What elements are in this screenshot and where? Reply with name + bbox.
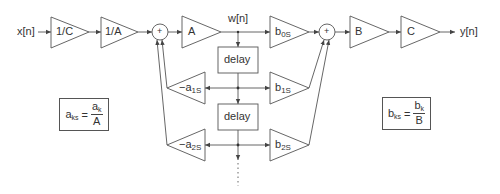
wire-b1s-to-sum [309,40,324,88]
equation-b-lhs: bks [388,107,401,120]
equation-b-lhs-sub: ks [394,113,401,120]
gain-1-over-a-label: 1/A [105,26,122,37]
gain-c-label: C [407,26,415,37]
equation-a-numerator: ak [91,101,103,115]
gain-neg-a2s-label: −a2S [179,139,201,152]
delay-1-label: delay [224,54,250,65]
gain-1-over-c-label: 1/C [56,26,73,37]
internal-signal-label: w[n] [228,13,248,24]
gain-b2s-label: b2S [275,139,291,152]
equation-b-fraction: bk B [413,100,425,127]
gain-a-label: A [188,26,195,37]
gain-neg-a2s-sub: 2S [192,143,202,152]
equation-a-denominator: A [93,115,100,128]
wire-a1s-to-sum [162,40,167,88]
gain-b2s-sub: 2S [281,143,291,152]
input-signal-label: x[n] [17,26,35,37]
gain-b1s-sub: 1S [281,86,291,95]
equation-b-denominator: B [416,114,423,127]
gain-b0s-sub: 0S [281,30,291,39]
gain-neg-a1s-sub: 1S [192,86,202,95]
junction-tap1 [237,87,240,90]
equation-b-box: bks = bk B [382,97,431,130]
gain-neg-a1s-base: −a [179,81,192,93]
equation-b-equals: = [404,108,410,120]
gain-neg-a1s-label: −a1S [179,82,201,95]
gain-b0s-label: b0S [275,26,291,39]
sum-feedforward-symbol: + [324,27,329,36]
gain-b-label: B [355,26,362,37]
equation-a-fraction: ak A [91,101,103,128]
gain-b1s-label: b1S [275,82,291,95]
equation-a-lhs: aks [65,108,78,121]
equation-a-lhs-sub: ks [72,114,79,121]
output-signal-label: y[n] [460,26,478,37]
equation-a-equals: = [82,109,88,121]
equation-a-box: aks = ak A [59,98,109,131]
equation-b-numerator: bk [413,100,425,114]
gain-neg-a2s-base: −a [179,138,192,150]
equation-a-num-sub: k [98,106,102,113]
sum-feedback-symbol: + [157,27,162,36]
delay-2-label: delay [224,111,250,122]
equation-b-num-sub: k [421,105,425,112]
junction-tap2 [237,144,240,147]
wire-a2s-to-sum [157,40,167,145]
junction-w [237,31,239,33]
